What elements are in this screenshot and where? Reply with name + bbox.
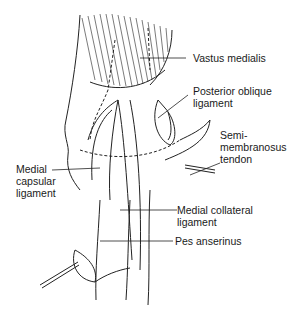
label-pes-anserinus: Pes anserinus	[175, 235, 242, 247]
thigh-outline	[65, 15, 80, 190]
label-medial-capsular-ligament: Medial capsular ligament	[16, 163, 56, 199]
posterior-oblique-loop	[155, 100, 175, 145]
label-medial-collateral-ligament: Medial collateral ligament	[177, 204, 253, 228]
semimembranosus-hook	[165, 120, 210, 160]
tibia-outline	[96, 200, 100, 300]
label-vastus-medialis: Vastus medialis	[193, 52, 266, 64]
vastus-medialis-muscle	[82, 14, 168, 88]
label-posterior-oblique-ligament: Posterior oblique ligament	[193, 85, 272, 109]
label-semimembranosus-tendon: Semi- membranosus tendon	[220, 129, 287, 165]
